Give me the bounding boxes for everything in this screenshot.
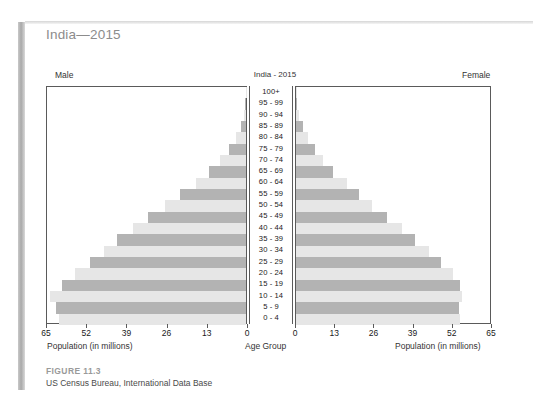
age-group-label: 35 - 39	[250, 233, 292, 244]
axis-tick-label: 0	[245, 328, 250, 338]
bar-female-30-34	[296, 246, 429, 257]
bar-row	[296, 280, 490, 291]
axis-tick-label: 13	[329, 328, 338, 338]
bar-female-40-44	[296, 223, 402, 234]
bar-male-20-24	[75, 268, 246, 279]
bar-male-90-94	[244, 110, 246, 121]
bar-row	[47, 189, 246, 200]
bar-row	[296, 155, 490, 166]
axis-tick-label: 26	[369, 328, 378, 338]
bar-female-10-14	[296, 291, 462, 302]
figure-caption: FIGURE 11.3 US Census Bureau, Internatio…	[46, 366, 212, 388]
x-axis-female: 01326395265	[295, 324, 491, 340]
bar-row	[47, 110, 246, 121]
bar-group-female	[296, 87, 490, 323]
bar-row	[296, 121, 490, 132]
bar-male-10-14	[50, 291, 246, 302]
bar-row	[296, 189, 490, 200]
bar-row	[47, 178, 246, 189]
age-group-label: 15 - 19	[250, 279, 292, 290]
figure-number: FIGURE 11.3	[46, 366, 212, 376]
bar-row	[296, 200, 490, 211]
bar-row	[47, 121, 246, 132]
bar-row	[47, 155, 246, 166]
bar-row	[47, 302, 246, 313]
bar-row	[296, 234, 490, 245]
age-group-label: 0 - 4	[250, 313, 292, 324]
age-group-label: 25 - 29	[250, 256, 292, 267]
age-group-label: 90 - 94	[250, 109, 292, 120]
age-group-label: 75 - 79	[250, 143, 292, 154]
bar-female-80-84	[296, 132, 308, 143]
bar-row	[47, 234, 246, 245]
bar-female-55-59	[296, 189, 359, 200]
age-group-label: 80 - 84	[250, 131, 292, 142]
bar-row	[296, 110, 490, 121]
bar-row	[296, 166, 490, 177]
bar-male-80-84	[236, 132, 246, 143]
age-group-label: 100+	[250, 86, 292, 97]
bar-female-25-29	[296, 257, 441, 268]
plot-area-female	[295, 86, 491, 324]
bar-female-90-94	[296, 110, 299, 121]
bar-male-50-54	[165, 200, 246, 211]
age-group-label: 55 - 59	[250, 188, 292, 199]
bar-row	[296, 178, 490, 189]
age-group-label: 85 - 89	[250, 120, 292, 131]
bar-row	[47, 98, 246, 109]
bar-male-95-99	[245, 98, 246, 109]
bar-row	[296, 291, 490, 302]
bar-row	[47, 291, 246, 302]
bar-male-25-29	[90, 257, 246, 268]
bar-row	[47, 268, 246, 279]
axis-tick-label: 0	[293, 328, 298, 338]
age-group-label: 30 - 34	[250, 245, 292, 256]
bar-female-15-19	[296, 280, 460, 291]
bar-row	[296, 268, 490, 279]
age-group-label: 60 - 64	[250, 177, 292, 188]
bar-female-20-24	[296, 268, 453, 279]
bar-male-15-19	[62, 280, 246, 291]
bar-row	[47, 166, 246, 177]
age-group-label: 70 - 74	[250, 154, 292, 165]
bar-row	[47, 132, 246, 143]
bar-female-5-9	[296, 302, 459, 313]
bar-row	[296, 87, 490, 98]
age-group-label: 5 - 9	[250, 301, 292, 312]
bar-female-65-69	[296, 166, 333, 177]
bar-row	[47, 212, 246, 223]
bar-male-45-49	[148, 212, 246, 223]
plot-area-male	[46, 86, 247, 324]
bar-row	[47, 257, 246, 268]
age-group-label: 65 - 69	[250, 165, 292, 176]
x-axis-title-center: Age Group	[245, 341, 286, 351]
bar-male-5-9	[56, 302, 246, 313]
axis-tick-label: 52	[81, 328, 90, 338]
bar-male-30-34	[104, 246, 246, 257]
bar-row	[47, 200, 246, 211]
population-pyramid-chart: Male Female India - 2015 100+95 - 9990 -…	[0, 0, 533, 418]
bar-row	[296, 98, 490, 109]
x-axis-male: 65523926130	[46, 324, 247, 340]
bar-group-male	[47, 87, 246, 323]
bar-female-60-64	[296, 178, 347, 189]
legend-label-female: Female	[462, 70, 490, 80]
x-axis-title-female: Population (in millions)	[395, 341, 481, 351]
age-group-label: 20 - 24	[250, 267, 292, 278]
axis-tick-label: 65	[41, 328, 50, 338]
x-axis-title-male: Population (in millions)	[47, 341, 133, 351]
bar-row	[296, 132, 490, 143]
age-group-label: 50 - 54	[250, 199, 292, 210]
bar-female-70-74	[296, 155, 323, 166]
axis-tick-label: 13	[202, 328, 211, 338]
age-group-label: 40 - 44	[250, 222, 292, 233]
bar-row	[296, 144, 490, 155]
bar-row	[47, 246, 246, 257]
bar-female-35-39	[296, 234, 415, 245]
age-group-label: 95 - 99	[250, 97, 292, 108]
bar-male-75-79	[229, 144, 246, 155]
bar-male-35-39	[117, 234, 246, 245]
figure-source: US Census Bureau, International Data Bas…	[46, 378, 212, 388]
bar-female-75-79	[296, 144, 315, 155]
bar-male-70-74	[220, 155, 246, 166]
